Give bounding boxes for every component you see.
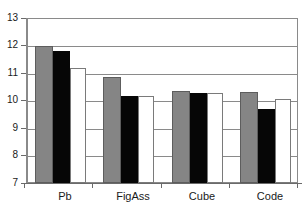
y-tick-mark-12 — [21, 45, 26, 46]
bar-group-figass — [103, 18, 163, 183]
bar-group-code — [240, 18, 300, 183]
x-tick-label-pb: Pb — [35, 190, 95, 203]
bar-code-series-3 — [275, 99, 291, 183]
x-axis: Pb FigAss Cube Code — [26, 190, 298, 210]
y-tick-label-8: 8 — [12, 150, 18, 160]
bar-pb-series-1 — [35, 46, 53, 184]
bar-cube-series-2 — [190, 93, 207, 183]
y-tick-mark-9 — [21, 128, 26, 129]
bars-layer — [26, 18, 298, 183]
bar-figass-series-3 — [138, 96, 154, 183]
bar-chart: 13 12 11 10 9 8 7 Pb FigAss Cube Code — [0, 0, 306, 212]
bar-figass-series-2 — [121, 96, 138, 183]
y-tick-mark-11 — [21, 73, 26, 74]
y-tick-label-13: 13 — [7, 13, 18, 23]
bar-figass-series-1 — [103, 77, 121, 183]
x-tick-label-figass: FigAss — [103, 190, 163, 203]
y-tick-label-11: 11 — [8, 68, 18, 78]
x-tick-mark-3 — [229, 183, 230, 188]
x-tick-mark-0 — [24, 183, 25, 188]
bar-pb-series-2 — [53, 51, 70, 183]
x-axis-line — [22, 183, 302, 184]
bar-group-pb — [35, 18, 95, 183]
x-tick-mark-2 — [161, 183, 162, 188]
y-tick-label-7: 7 — [12, 178, 18, 188]
y-tick-mark-13 — [21, 18, 26, 19]
y-tick-label-9: 9 — [12, 123, 18, 133]
y-tick-label-12: 12 — [7, 40, 18, 50]
y-axis: 13 12 11 10 9 8 7 — [0, 0, 26, 212]
bar-code-series-2 — [258, 109, 275, 183]
bar-pb-series-3 — [70, 68, 86, 184]
x-tick-mark-4 — [297, 183, 298, 188]
y-tick-mark-10 — [21, 100, 26, 101]
bar-cube-series-1 — [172, 91, 190, 183]
y-tick-mark-8 — [21, 155, 26, 156]
bar-code-series-1 — [240, 92, 258, 183]
bar-group-cube — [172, 18, 232, 183]
x-tick-mark-1 — [92, 183, 93, 188]
x-tick-label-code: Code — [240, 190, 300, 203]
y-tick-label-10: 10 — [7, 95, 18, 105]
bar-cube-series-3 — [207, 93, 223, 183]
x-tick-label-cube: Cube — [172, 190, 232, 203]
